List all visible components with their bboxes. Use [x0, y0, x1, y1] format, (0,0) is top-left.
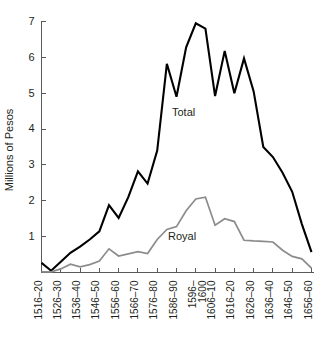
svg-text:1656–60: 1656–60	[303, 280, 314, 319]
svg-text:1536–40: 1536–40	[71, 280, 82, 319]
x-tick-label: 1566–70	[129, 280, 140, 319]
x-tick-label: 1626–30	[245, 280, 256, 319]
y-tick-label: 5	[28, 87, 34, 99]
series-annotations: TotalRoyal	[168, 106, 196, 242]
y-tick-label: 2	[28, 194, 34, 206]
x-tick-label: 1576–80	[148, 280, 159, 319]
line-chart: 1234567 1516–201526–301536–401546–501556…	[0, 0, 324, 338]
x-tick-label: 1516–20	[33, 280, 44, 319]
chart-container: 1234567 1516–201526–301536–401546–501556…	[0, 0, 324, 338]
x-tick-label: 1606–10	[206, 280, 217, 319]
y-axis: 1234567	[28, 15, 45, 273]
y-tick-label: 3	[28, 158, 34, 170]
x-tick-label: 1586–90	[168, 280, 179, 319]
svg-text:1516–20: 1516–20	[33, 280, 44, 319]
svg-text:1606–10: 1606–10	[206, 280, 217, 319]
y-tick-label: 7	[28, 15, 34, 27]
svg-text:1526–30: 1526–30	[52, 280, 63, 319]
y-tick-label: 6	[28, 51, 34, 63]
x-axis: 1516–201526–301536–401546–501556–601566–…	[33, 268, 314, 320]
x-tick-label: 1636–40	[264, 280, 275, 319]
svg-text:1566–70: 1566–70	[129, 280, 140, 319]
x-tick-label: 1536–40	[71, 280, 82, 319]
y-axis-title: Millions of Pesos	[3, 108, 15, 191]
svg-text:1626–30: 1626–30	[245, 280, 256, 319]
x-tick-label: 1656–60	[303, 280, 314, 319]
x-tick-label: 1646–50	[283, 280, 294, 319]
svg-text:1646–50: 1646–50	[283, 280, 294, 319]
svg-text:1616–20: 1616–20	[225, 280, 236, 319]
svg-text:1636–40: 1636–40	[264, 280, 275, 319]
series-annotation-total: Total	[172, 106, 195, 118]
svg-text:1586–90: 1586–90	[168, 280, 179, 319]
svg-text:1576–80: 1576–80	[148, 280, 159, 319]
series-annotation-royal: Royal	[168, 230, 196, 242]
svg-text:1546–50: 1546–50	[90, 280, 101, 319]
y-tick-label: 1	[28, 230, 34, 242]
x-tick-label: 1616–20	[225, 280, 236, 319]
x-tick-label: 1546–50	[90, 280, 101, 319]
x-tick-label: 1556–60	[110, 280, 121, 319]
x-tick-label: 1596–1600	[187, 280, 208, 308]
x-tick-label: 1526–30	[52, 280, 63, 319]
svg-text:1596–1600: 1596–1600	[187, 280, 208, 308]
y-tick-label: 4	[28, 122, 34, 134]
svg-text:1556–60: 1556–60	[110, 280, 121, 319]
